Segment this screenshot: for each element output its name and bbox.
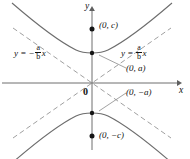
asymptote-left-prefix: y = − bbox=[14, 48, 35, 58]
asymptote-right-prefix: y = bbox=[121, 48, 136, 58]
asymptote-right-denominator: b bbox=[136, 52, 142, 61]
asymptote-right-numerator: a bbox=[136, 44, 142, 52]
asymptote-left-suffix: x bbox=[42, 48, 46, 58]
asymptote-label-right: y = abx bbox=[121, 44, 147, 61]
point-label-vertex-upper: (0, a) bbox=[126, 64, 146, 73]
x-axis-label: x bbox=[179, 86, 183, 96]
asymptote-left-fraction: ab bbox=[35, 44, 41, 61]
asymptote-right-fraction: ab bbox=[136, 44, 142, 61]
point-vertex-lower bbox=[90, 111, 94, 115]
asymptote-left-denominator: b bbox=[35, 52, 41, 61]
origin-label: 0 bbox=[83, 87, 88, 97]
asymptote-left-numerator: a bbox=[35, 44, 41, 52]
point-label-focus-upper: (0, c) bbox=[99, 21, 118, 30]
hyperbola-figure: y x 0 (0, c) (0, a) (0, −a) (0, −c) y = … bbox=[0, 0, 190, 159]
figure-canvas bbox=[0, 0, 190, 159]
asymptote-right-suffix: x bbox=[143, 48, 147, 58]
point-label-focus-lower: (0, −c) bbox=[99, 131, 124, 140]
point-vertex-upper bbox=[90, 51, 94, 55]
leader-line-vertex-lower bbox=[99, 93, 126, 111]
y-axis-label: y bbox=[85, 2, 89, 12]
asymptote-label-left: y = −abx bbox=[14, 44, 46, 61]
point-focus-upper bbox=[90, 27, 95, 32]
point-label-vertex-lower: (0, −a) bbox=[126, 88, 152, 97]
point-focus-lower bbox=[90, 134, 95, 139]
